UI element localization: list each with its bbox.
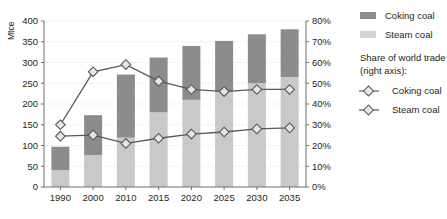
x-tick-label: 1990 — [50, 192, 71, 203]
legend-swatch-steam-coal — [360, 31, 376, 38]
y-right-tick-label: 70% — [312, 36, 332, 47]
bar-steam-coal — [150, 112, 168, 187]
y-tick-label: 350 — [22, 36, 38, 47]
y-right-tick-label: 50% — [312, 78, 332, 89]
legend-group-title-line1: Share of world trade — [360, 52, 446, 63]
y-axis-title: Mtce — [6, 21, 16, 40]
y-tick-label: 250 — [22, 78, 38, 89]
bar-steam-coal — [84, 155, 102, 187]
x-tick-label: 2025 — [214, 192, 235, 203]
y-tick-label: 0 — [33, 181, 38, 192]
bar-coking-coal — [248, 34, 266, 83]
right-axis-ticks: 0%10%20%30%40%50%60%70%80% — [306, 15, 332, 192]
y-right-tick-label: 10% — [312, 161, 332, 172]
x-tick-label: 2030 — [246, 192, 267, 203]
legend-label-coking-coal-share: Coking coal — [392, 85, 442, 96]
y-right-tick-label: 40% — [312, 98, 332, 109]
y-tick-label: 50 — [27, 161, 38, 172]
x-tick-label: 2010 — [115, 192, 136, 203]
bar-coking-coal — [281, 29, 299, 77]
y-right-tick-label: 30% — [312, 119, 332, 130]
y-tick-label: 300 — [22, 57, 38, 68]
chart-figure: 050100150200250300350400 0%10%20%30%40%5… — [0, 0, 447, 219]
legend-label-steam-coal-share: Steam coal — [392, 104, 440, 115]
bar-steam-coal — [248, 83, 266, 187]
y-tick-label: 100 — [22, 140, 38, 151]
x-axis-ticks: 19902000201020152020202520302035 — [50, 187, 300, 203]
coal-trade-chart: 050100150200250300350400 0%10%20%30%40%5… — [0, 0, 447, 219]
x-tick-label: 2035 — [279, 192, 300, 203]
y-tick-label: 150 — [22, 119, 38, 130]
y-right-tick-label: 0% — [312, 181, 326, 192]
left-axis-ticks: 050100150200250300350400 — [22, 15, 44, 192]
bar-steam-coal — [215, 92, 233, 187]
legend-swatch-coking-coal — [360, 12, 376, 19]
y-tick-label: 400 — [22, 15, 38, 26]
bar-steam-coal — [51, 170, 69, 187]
legend-label-coking-coal: Coking coal — [385, 10, 435, 21]
legend-marker-coking-coal-line — [359, 86, 379, 96]
bar-coking-coal — [51, 147, 69, 170]
bar-steam-coal — [182, 100, 200, 187]
x-tick-label: 2020 — [181, 192, 202, 203]
chart-legend: Coking coal Steam coal Share of world tr… — [359, 10, 446, 115]
y-right-tick-label: 60% — [312, 57, 332, 68]
x-tick-label: 2015 — [148, 192, 169, 203]
legend-marker-steam-coal-line — [359, 105, 379, 115]
legend-group-title-line2: (right axis): — [360, 65, 407, 76]
bar-coking-coal — [117, 75, 135, 138]
x-tick-label: 2000 — [83, 192, 104, 203]
legend-label-steam-coal: Steam coal — [385, 29, 433, 40]
y-right-tick-label: 20% — [312, 140, 332, 151]
bar-coking-coal — [215, 41, 233, 92]
y-tick-label: 200 — [22, 98, 38, 109]
y-right-tick-label: 80% — [312, 15, 332, 26]
